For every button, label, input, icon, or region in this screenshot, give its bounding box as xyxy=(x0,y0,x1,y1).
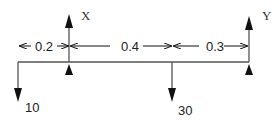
down-arrow-icon xyxy=(14,88,22,102)
pin-support-icon xyxy=(245,64,253,75)
dimension-0-3: 0.3 xyxy=(174,39,247,54)
down-arrow-icon xyxy=(168,88,176,102)
load-10: 10 xyxy=(14,62,39,115)
dimension-0-4: 0.4 xyxy=(71,39,171,54)
up-arrow-icon xyxy=(245,16,253,30)
pin-support-icon xyxy=(65,64,73,75)
load-10-label: 10 xyxy=(25,100,39,115)
load-30-label: 30 xyxy=(178,103,192,118)
dimension-label: 0.2 xyxy=(35,39,53,54)
dimension-label: 0.4 xyxy=(121,39,139,54)
dimension-0-2: 0.2 xyxy=(20,39,68,54)
support-y-label: Y xyxy=(262,8,272,23)
beam-diagram: X Y 10 30 0.2 0.4 0.3 xyxy=(0,0,276,125)
up-arrow-icon xyxy=(65,14,73,28)
support-x-label: X xyxy=(81,8,91,23)
support-x: X xyxy=(65,8,91,75)
dimension-label: 0.3 xyxy=(206,39,224,54)
support-y: Y xyxy=(245,8,272,75)
load-30: 30 xyxy=(168,62,192,118)
